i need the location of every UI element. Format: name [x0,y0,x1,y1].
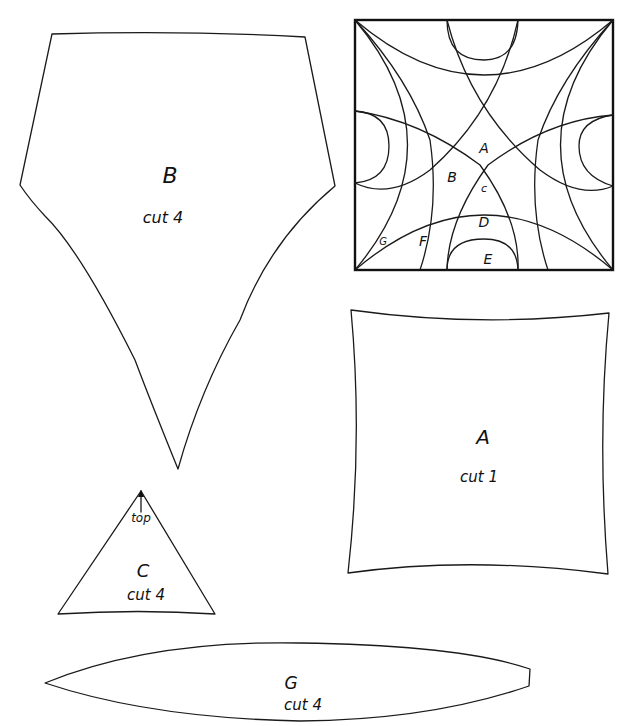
piece-g-template: G cut 4 [45,643,530,721]
piece-c-template: top C cut 4 [58,490,215,614]
piece-a-template: A cut 1 [348,310,609,574]
block-label-b: B [447,169,457,185]
block-label-d: D [479,214,490,230]
piece-b-cut-count: cut 4 [143,208,183,227]
piece-g-letter: G [284,673,297,693]
block-label-g: G [379,236,387,247]
piece-g-cut-count: cut 4 [284,696,322,714]
piece-a-cut-count: cut 1 [460,468,498,486]
block-label-c: c [481,182,487,195]
piece-a-letter: A [474,425,490,449]
pattern-sheet: B cut 4 A B c D E F G A [0,0,625,726]
piece-c-letter: C [137,560,150,581]
piece-b-template: B cut 4 [20,33,335,469]
block-label-f: F [419,233,428,249]
block-label-a: A [478,140,489,156]
block-label-e: E [484,251,493,267]
piece-c-top-note: top [131,511,151,525]
piece-b-letter: B [162,163,177,188]
piece-c-cut-count: cut 4 [127,586,165,604]
block-assembly-diagram: A B c D E F G [355,20,613,270]
